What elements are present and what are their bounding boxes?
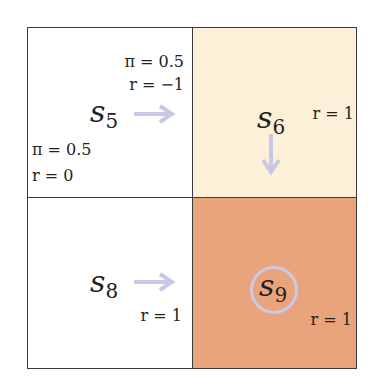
cell-s5: π = 0.5 r = −1 s5 π = 0.5 r = 0 <box>27 27 193 198</box>
s6-reward: r = 1 <box>313 104 354 123</box>
grid-world: π = 0.5 r = −1 s5 π = 0.5 r = 0 s6 r = 1… <box>27 27 357 369</box>
s5-down-reward: r = 0 <box>32 166 73 185</box>
s5-right-policy: π = 0.5 <box>124 52 184 71</box>
s8-reward: r = 1 <box>141 306 182 325</box>
s5-symbol: s <box>90 94 105 129</box>
s8-symbol: s <box>90 264 105 299</box>
s9-symbol: s <box>259 268 274 303</box>
right-arrow-icon <box>132 104 178 124</box>
s5-right-reward: r = −1 <box>129 75 184 94</box>
s5-label: s5 <box>90 94 118 133</box>
s5-index: 5 <box>105 109 118 133</box>
cell-s9: s9 r = 1 <box>192 197 357 369</box>
right-arrow-icon <box>132 272 178 292</box>
s9-index: 9 <box>274 283 287 307</box>
down-arrow-icon <box>261 132 281 178</box>
s9-label: s9 <box>259 268 287 307</box>
s8-index: 8 <box>105 279 118 303</box>
s5-down-policy: π = 0.5 <box>32 140 92 159</box>
cell-s8: s8 r = 1 <box>27 197 193 369</box>
s8-label: s8 <box>90 264 118 303</box>
s9-reward: r = 1 <box>311 310 352 329</box>
s6-symbol: s <box>257 100 272 135</box>
cell-s6: s6 r = 1 <box>192 27 357 198</box>
